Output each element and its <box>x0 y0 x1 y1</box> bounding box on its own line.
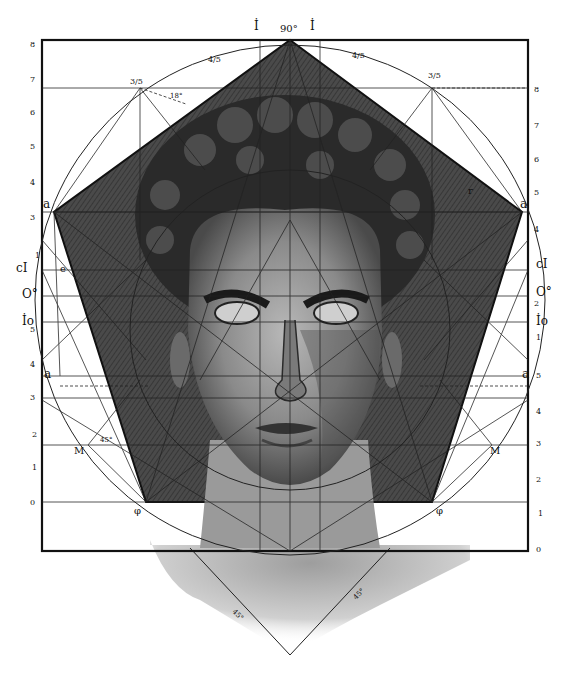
top-right-I-label: İ <box>310 18 315 33</box>
svg-text:r: r <box>468 185 473 196</box>
svg-text:3: 3 <box>30 213 35 222</box>
upper-left-fraction: 3/5 <box>130 77 143 86</box>
svg-text:İo: İo <box>22 313 34 328</box>
svg-text:8: 8 <box>30 40 35 49</box>
svg-text:4: 4 <box>536 407 541 416</box>
pentagon-head-diagram: İ 90° İ 3/5 3/5 4/5 4/5 18° 8 7 6 5 4 3 … <box>0 0 569 673</box>
svg-text:a: a <box>522 367 529 381</box>
svg-text:cI: cI <box>16 261 28 275</box>
svg-text:6: 6 <box>30 108 35 117</box>
svg-text:1: 1 <box>32 463 37 472</box>
svg-text:6: 6 <box>534 155 539 164</box>
svg-text:4: 4 <box>30 360 35 369</box>
svg-text:a: a <box>44 367 51 381</box>
svg-text:2: 2 <box>534 299 539 308</box>
svg-text:7: 7 <box>534 121 539 130</box>
svg-text:cI: cI <box>536 257 548 271</box>
neck-shading <box>150 540 470 655</box>
svg-text:a: a <box>520 197 527 211</box>
svg-text:M: M <box>74 445 84 456</box>
svg-text:4: 4 <box>30 178 35 187</box>
top-left-small-fraction: 4/5 <box>208 55 221 64</box>
svg-text:45°: 45° <box>100 436 112 444</box>
svg-text:2: 2 <box>32 430 37 439</box>
svg-text:φ: φ <box>134 505 141 516</box>
top-left-I-label: İ <box>254 18 259 33</box>
svg-text:e: e <box>60 263 66 274</box>
svg-text:1: 1 <box>538 509 543 518</box>
svg-text:O°: O° <box>536 285 552 299</box>
angle-18-label: 18° <box>170 92 182 100</box>
svg-text:O°: O° <box>22 287 38 301</box>
svg-text:M: M <box>490 445 500 456</box>
left-scale: 8 7 6 5 4 3 1 5 4 3 2 1 0 <box>30 40 40 507</box>
svg-text:0: 0 <box>30 498 35 507</box>
svg-text:1: 1 <box>536 333 541 342</box>
svg-text:3: 3 <box>536 439 541 448</box>
svg-text:2: 2 <box>536 475 541 484</box>
svg-text:8: 8 <box>534 85 539 94</box>
svg-text:5: 5 <box>536 371 541 380</box>
upper-right-fraction: 3/5 <box>428 71 441 80</box>
svg-text:0: 0 <box>536 545 541 554</box>
svg-text:1: 1 <box>35 251 40 260</box>
top-right-small-fraction: 4/5 <box>352 51 365 60</box>
svg-text:7: 7 <box>30 75 35 84</box>
svg-text:İo: İo <box>536 313 548 328</box>
apex-angle-label: 90° <box>280 23 298 34</box>
svg-text:5: 5 <box>30 142 35 151</box>
right-eye <box>314 302 358 324</box>
svg-text:5: 5 <box>534 188 539 197</box>
svg-text:4: 4 <box>534 225 539 234</box>
svg-text:a: a <box>43 197 50 211</box>
left-eye <box>215 302 259 324</box>
svg-text:φ: φ <box>436 505 443 516</box>
svg-text:3: 3 <box>30 393 35 402</box>
